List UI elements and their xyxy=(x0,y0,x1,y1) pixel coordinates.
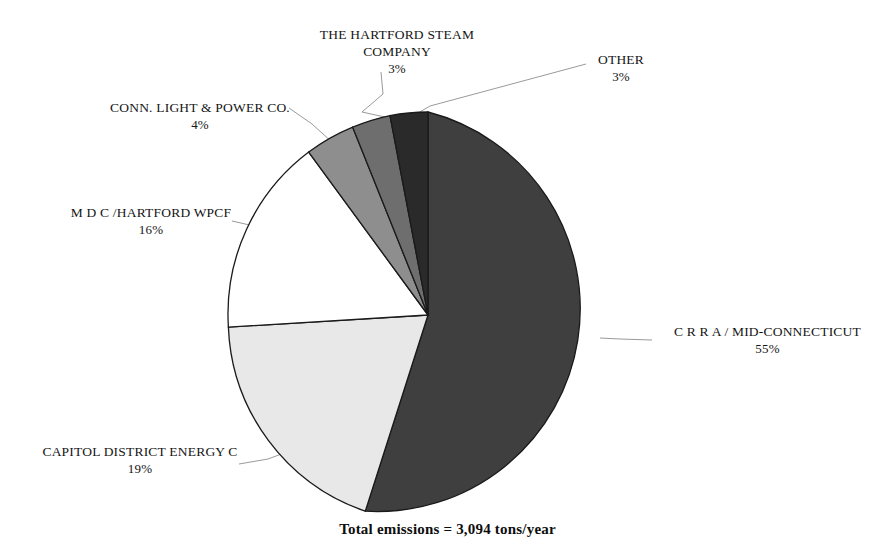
slice-percent-conn-light-power: 4% xyxy=(85,117,315,133)
slice-label-other-name: OTHER xyxy=(561,52,681,69)
slice-label-conn-light-power: CONN. LIGHT & POWER CO. 4% xyxy=(85,100,315,133)
slice-label-conn-light-power-name: CONN. LIGHT & POWER CO. xyxy=(85,100,315,117)
slice-percent-capitol-district-energy: 19% xyxy=(10,461,270,477)
slice-label-capitol-district-energy: CAPITOL DISTRICT ENERGY C 19% xyxy=(10,444,270,477)
slice-percent-other: 3% xyxy=(561,69,681,85)
slice-percent-mdc-hartford-wpcf: 16% xyxy=(36,222,266,238)
slice-percent-hartford-steam: 3% xyxy=(292,61,502,77)
chart-caption: Total emissions = 3,094 tons/year xyxy=(0,521,895,538)
slice-label-crra: C R R A / MID-CONNECTICUT 55% xyxy=(650,324,885,357)
leader-line-hartford-steam xyxy=(362,72,394,119)
slice-label-hartford-steam: THE HARTFORD STEAM COMPANY 3% xyxy=(292,27,502,77)
slice-label-crra-name: C R R A / MID-CONNECTICUT xyxy=(650,324,885,341)
slice-label-hartford-steam-line1: THE HARTFORD STEAM xyxy=(292,27,502,44)
leader-line-crra xyxy=(600,338,652,340)
slice-label-mdc-hartford-wpcf: M D C /HARTFORD WPCF 16% xyxy=(36,205,266,238)
slice-label-hartford-steam-line2: COMPANY xyxy=(292,44,502,61)
slice-label-mdc-hartford-wpcf-name: M D C /HARTFORD WPCF xyxy=(36,205,266,222)
slice-percent-crra: 55% xyxy=(650,341,885,357)
slice-label-other: OTHER 3% xyxy=(561,52,681,85)
pie-chart-figure: THE HARTFORD STEAM COMPANY 3% OTHER 3% C… xyxy=(0,0,895,558)
pie-slices xyxy=(228,112,580,512)
slice-label-capitol-district-energy-name: CAPITOL DISTRICT ENERGY C xyxy=(10,444,270,461)
